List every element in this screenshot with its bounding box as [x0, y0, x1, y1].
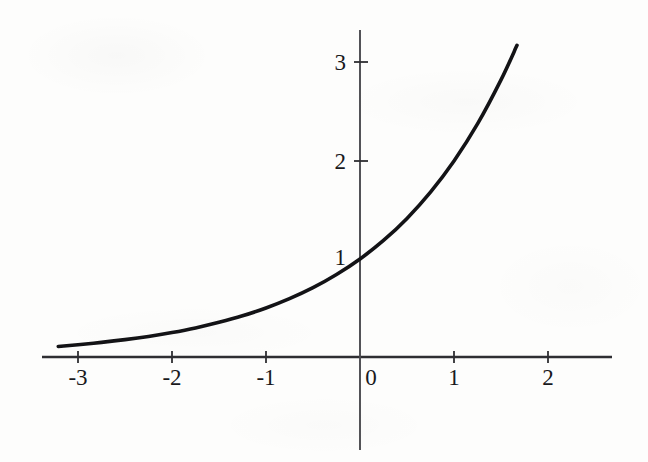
plot-area — [0, 0, 648, 462]
x-tick-label-minus2: -2 — [162, 366, 181, 389]
y-axis-ticks — [354, 62, 368, 161]
exponential-curve — [58, 45, 517, 346]
x-tick-label-0: 0 — [365, 366, 377, 389]
x-tick-label-1: 1 — [448, 366, 460, 389]
y-tick-label-1: 1 — [330, 246, 346, 269]
figure-container: -3 -2 -1 0 1 2 1 2 3 — [0, 0, 648, 462]
x-tick-label-minus3: -3 — [68, 366, 87, 389]
x-tick-label-minus1: -1 — [256, 366, 275, 389]
y-tick-label-2: 2 — [330, 150, 346, 173]
y-tick-label-3: 3 — [330, 51, 346, 74]
x-tick-label-2: 2 — [542, 366, 554, 389]
